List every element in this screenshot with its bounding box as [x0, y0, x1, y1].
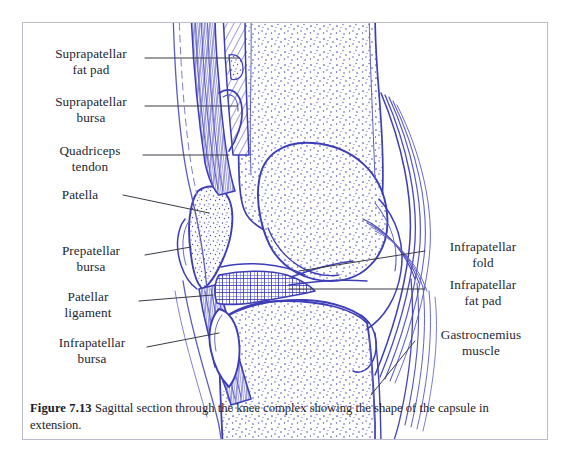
- label-patella: Patella: [41, 187, 119, 203]
- label-line-2: bursa: [41, 351, 143, 367]
- label-infrapatellar-fat-pad: Infrapatellar fat pad: [431, 277, 535, 308]
- figure-number: Figure 7.13: [30, 401, 92, 415]
- knee-sagittal-illustration: [23, 23, 548, 440]
- label-line-1: Suprapatellar: [41, 94, 141, 110]
- label-infrapatellar-bursa: Infrapatellar bursa: [41, 335, 143, 366]
- figure-page: Suprapatellar fat pad Suprapatellar burs…: [0, 0, 570, 462]
- leader-gastrocnemius-muscle: [371, 341, 415, 395]
- label-patellar-ligament: Patellar ligament: [41, 289, 135, 320]
- label-line-1: Prepatellar: [41, 243, 141, 259]
- leader-patellar-ligament: [139, 295, 213, 301]
- label-infrapatellar-fold: Infrapatellar fold: [431, 239, 535, 270]
- label-gastrocnemius-muscle: Gastrocnemius muscle: [423, 327, 539, 358]
- figure-caption-text: Sagittal section through the knee comple…: [30, 401, 489, 432]
- label-line-1: Patellar: [41, 289, 135, 305]
- label-line-2: fat pad: [431, 293, 535, 309]
- label-quadriceps-tendon: Quadriceps tendon: [41, 143, 139, 174]
- label-line-1: Patella: [41, 187, 119, 203]
- label-line-1: Infrapatellar: [41, 335, 143, 351]
- leader-patella: [123, 195, 209, 213]
- label-suprapatellar-fat-pad: Suprapatellar fat pad: [41, 46, 141, 77]
- figure-frame: Suprapatellar fat pad Suprapatellar burs…: [22, 22, 548, 440]
- label-line-1: Suprapatellar: [41, 46, 141, 62]
- label-line-1: Gastrocnemius: [423, 327, 539, 343]
- label-line-2: bursa: [41, 110, 141, 126]
- label-line-1: Infrapatellar: [431, 277, 535, 293]
- label-line-2: muscle: [423, 343, 539, 359]
- label-line-1: Quadriceps: [41, 143, 139, 159]
- label-prepatellar-bursa: Prepatellar bursa: [41, 243, 141, 274]
- label-suprapatellar-bursa: Suprapatellar bursa: [41, 94, 141, 125]
- label-line-2: bursa: [41, 259, 141, 275]
- label-line-2: fold: [431, 255, 535, 271]
- leader-infrapatellar-fold: [299, 251, 425, 271]
- label-line-2: tendon: [41, 159, 139, 175]
- leader-prepatellar-bursa: [145, 247, 191, 255]
- label-line-2: fat pad: [41, 62, 141, 78]
- label-line-1: Infrapatellar: [431, 239, 535, 255]
- figure-caption: Figure 7.13 Sagittal section through the…: [30, 400, 542, 433]
- leader-infrapatellar-bursa: [147, 333, 219, 347]
- label-line-2: ligament: [41, 305, 135, 321]
